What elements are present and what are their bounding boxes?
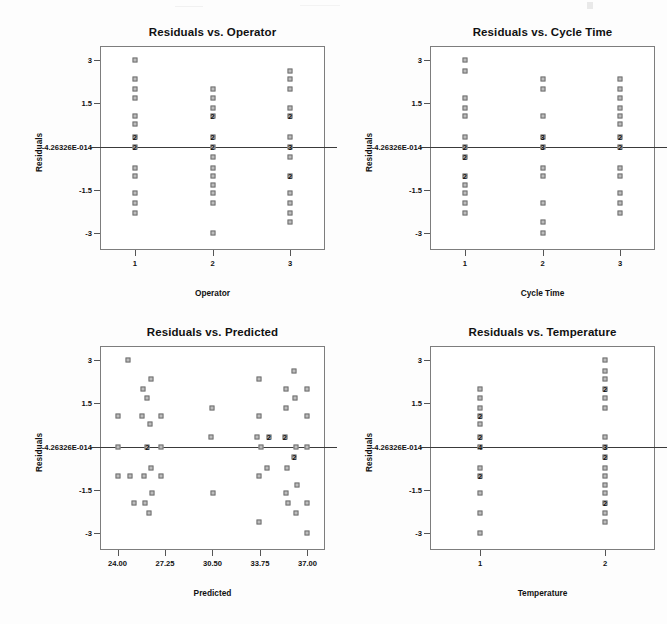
data-point-marker (159, 474, 164, 479)
data-point-marker (283, 491, 288, 496)
x-tick-label: 1 (478, 559, 482, 568)
y-tick-mark (424, 360, 430, 361)
x-tick-mark (118, 550, 119, 556)
y-axis-title: Residuals (364, 133, 374, 172)
y-tick-mark (94, 533, 100, 534)
data-point-marker (618, 174, 623, 179)
y-axis-title: Residuals (364, 433, 374, 472)
data-point-marker (284, 405, 289, 410)
data-point-marker (132, 200, 137, 205)
data-point-marker (603, 358, 608, 363)
chart-title: Residuals vs. Temperature (430, 326, 655, 338)
x-tick-mark (480, 550, 481, 556)
y-tick-label: -4.26326E-014 (358, 142, 422, 151)
figure-page: Residuals vs. OperatorResiduals31.5-4.26… (0, 0, 667, 624)
scan-artifact (587, 2, 593, 9)
y-axis-title: Residuals (34, 433, 44, 472)
data-point-marker (145, 396, 150, 401)
y-tick-label: 3 (358, 56, 422, 65)
data-point-marker (140, 413, 145, 418)
data-point-marker (210, 87, 215, 92)
data-point-marker (115, 413, 120, 418)
data-point-marker (132, 174, 137, 179)
data-point-marker (142, 500, 147, 505)
data-point-marker (288, 219, 293, 224)
data-point-marker (210, 191, 215, 196)
data-point-marker (603, 465, 608, 470)
data-point-marker (478, 387, 483, 392)
data-point-marker (540, 77, 545, 82)
data-point-marker (288, 191, 293, 196)
plot-frame (100, 346, 325, 550)
y-tick-label: -3 (358, 528, 422, 537)
data-point-marker (158, 413, 163, 418)
scan-artifact (300, 5, 340, 6)
data-point-marker (462, 113, 467, 118)
x-tick-mark (290, 250, 291, 256)
overlap-count-label: 2 (210, 142, 214, 151)
overlap-count-label: 2 (210, 111, 214, 120)
data-point-marker (127, 474, 132, 479)
data-point-marker (478, 422, 483, 427)
data-point-marker (618, 210, 623, 215)
data-point-marker (257, 377, 262, 382)
data-point-marker (603, 491, 608, 496)
data-point-marker (603, 435, 608, 440)
data-point-marker (210, 105, 215, 110)
x-axis-title: Predicted (194, 588, 232, 598)
data-point-marker (462, 69, 467, 74)
data-point-marker (285, 465, 290, 470)
data-point-marker (210, 155, 215, 160)
data-point-marker (210, 183, 215, 188)
x-tick-label: 2 (603, 559, 607, 568)
data-point-marker (288, 135, 293, 140)
overlap-count-label: 2 (267, 433, 271, 442)
x-tick-label: 27.25 (156, 559, 175, 568)
data-point-marker (132, 87, 137, 92)
data-point-marker (210, 174, 215, 179)
data-point-marker (132, 165, 137, 170)
data-point-marker (305, 500, 310, 505)
overlap-count-label: 2 (618, 142, 622, 151)
chart-title: Residuals vs. Operator (100, 26, 325, 38)
overlap-count-label: 2 (603, 498, 607, 507)
data-point-marker (210, 165, 215, 170)
data-point-marker (478, 396, 483, 401)
data-point-marker (210, 96, 215, 101)
x-tick-mark (307, 550, 308, 556)
data-point-marker (305, 444, 310, 449)
data-point-marker (132, 122, 137, 127)
data-point-marker (288, 69, 293, 74)
data-point-marker (115, 474, 120, 479)
x-tick-label: 24.00 (108, 559, 127, 568)
data-point-marker (462, 191, 467, 196)
x-axis-title: Cycle Time (521, 288, 565, 298)
data-point-marker (618, 122, 623, 127)
data-point-marker (603, 369, 608, 374)
overlap-count-label: 2 (145, 442, 149, 451)
y-tick-label: -1.5 (358, 185, 422, 194)
x-tick-label: 37.00 (298, 559, 317, 568)
data-point-marker (540, 200, 545, 205)
overlap-count-label: 2 (478, 472, 482, 481)
y-tick-label: -1.5 (358, 485, 422, 494)
y-tick-mark (424, 490, 430, 491)
data-point-marker (288, 200, 293, 205)
y-tick-label: -3 (28, 528, 92, 537)
data-point-marker (256, 519, 261, 524)
x-tick-label: 2 (540, 259, 544, 268)
x-tick-mark (165, 550, 166, 556)
y-tick-label: 3 (358, 356, 422, 365)
data-point-marker (293, 510, 298, 515)
chart-panel-residuals-vs-cycle-time: Residuals vs. Cycle TimeResiduals31.5-4.… (360, 24, 667, 320)
overlap-count-label: 3 (540, 142, 544, 151)
data-point-marker (462, 96, 467, 101)
chart-title: Residuals vs. Predicted (100, 326, 325, 338)
data-point-marker (293, 396, 298, 401)
y-tick-mark (94, 360, 100, 361)
data-point-marker (257, 413, 262, 418)
y-tick-mark (424, 103, 430, 104)
data-point-marker (540, 87, 545, 92)
data-point-marker (603, 474, 608, 479)
overlap-count-label: 2 (463, 142, 467, 151)
